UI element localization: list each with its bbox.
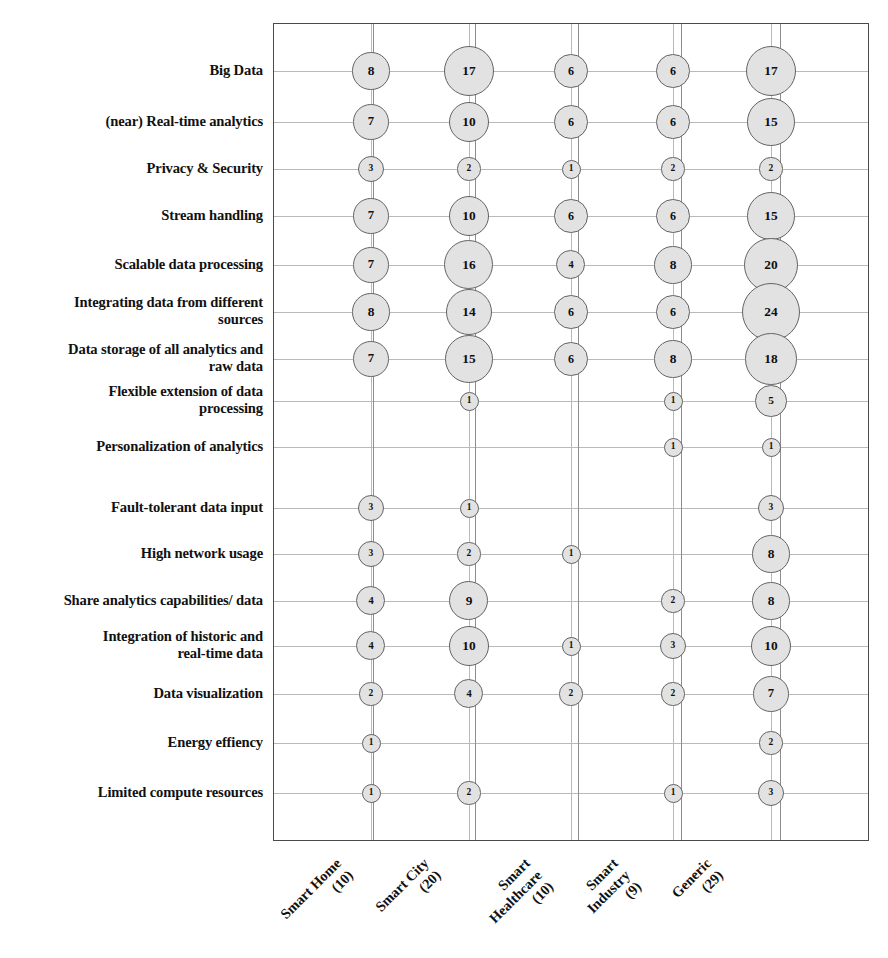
bubble-value-label: 6: [568, 353, 574, 365]
bubble-data-point: 3: [758, 495, 784, 521]
bubble-data-point: 8: [654, 246, 691, 283]
bubble-data-point: 6: [554, 342, 587, 375]
bubble-data-point: 7: [753, 676, 788, 711]
bubble-value-label: 6: [670, 116, 676, 128]
bubble-value-label: 8: [368, 305, 375, 318]
bubble-value-label: 10: [462, 115, 475, 128]
bubble-chart: Big Data (near) Real-time analytics Priv…: [0, 0, 888, 958]
grid-line-vertical: [371, 24, 372, 840]
bubble-value-label: 1: [671, 788, 676, 798]
bubble-value-label: 6: [670, 210, 676, 222]
bubble-value-label: 15: [764, 209, 777, 222]
bubble-data-point: 1: [762, 438, 781, 457]
bubble-data-point: 4: [356, 631, 385, 660]
y-axis-label-stream-handling: Stream handling: [0, 207, 263, 224]
bubble-value-label: 14: [462, 305, 475, 318]
bubble-value-label: 2: [369, 689, 374, 699]
y-axis-label-high-network-usage: High network usage: [0, 545, 263, 562]
bubble-value-label: 2: [671, 596, 676, 606]
category-divider: [578, 24, 579, 840]
bubble-data-point: 9: [449, 581, 488, 620]
grid-line-vertical: [469, 24, 470, 840]
bubble-value-label: 15: [764, 115, 777, 128]
y-axis-label-personalization-of-analytics: Personalization of analytics: [0, 438, 263, 455]
grid-line-vertical: [771, 24, 772, 840]
bubble-data-point: 2: [661, 589, 684, 612]
grid-line-vertical: [571, 24, 572, 840]
x-axis-label-smart-healthcare: Smart Healthcare (10): [474, 855, 557, 938]
bubble-value-label: 7: [368, 352, 374, 365]
bubble-data-point: 3: [358, 495, 384, 521]
bubble-value-label: 3: [369, 164, 374, 174]
bubble-value-label: 1: [467, 396, 472, 406]
bubble-value-label: 1: [467, 503, 472, 513]
bubble-value-label: 6: [568, 116, 574, 128]
bubble-value-label: 8: [768, 547, 775, 560]
y-axis-label-data-visualization: Data visualization: [0, 685, 263, 702]
bubble-data-point: 2: [457, 157, 480, 180]
bubble-data-point: 6: [554, 295, 587, 328]
bubble-data-point: 3: [358, 541, 384, 567]
bubble-data-point: 18: [745, 333, 796, 384]
y-axis-label-share-analytics-capabilities: Share analytics capabilities/ data: [0, 592, 263, 609]
bubble-value-label: 4: [368, 641, 373, 651]
bubble-data-point: 1: [562, 545, 581, 564]
y-axis-label-flexible-extension: Flexible extension of data processing: [0, 383, 263, 417]
bubble-data-point: 6: [554, 199, 587, 232]
bubble-data-point: 4: [556, 250, 585, 279]
bubble-value-label: 3: [369, 549, 374, 559]
bubble-data-point: 6: [656, 295, 689, 328]
bubble-data-point: 15: [747, 192, 795, 240]
bubble-data-point: 8: [752, 582, 789, 619]
y-axis-labels: Big Data (near) Real-time analytics Priv…: [0, 0, 265, 958]
bubble-data-point: 7: [353, 104, 388, 139]
bubble-data-point: 10: [449, 102, 490, 143]
y-axis-label-energy-effiency: Energy effiency: [0, 734, 263, 751]
bubble-data-point: 1: [460, 392, 479, 411]
bubble-value-label: 7: [368, 209, 374, 222]
bubble-data-point: 6: [554, 105, 587, 138]
bubble-data-point: 8: [352, 52, 389, 89]
bubble-data-point: 1: [362, 734, 381, 753]
bubble-value-label: 1: [569, 164, 574, 174]
bubble-data-point: 7: [353, 198, 388, 233]
bubble-data-point: 1: [664, 784, 683, 803]
bubble-value-label: 2: [769, 164, 774, 174]
bubble-value-label: 4: [368, 596, 373, 606]
bubble-value-label: 6: [568, 306, 574, 318]
bubble-value-label: 2: [467, 164, 472, 174]
bubble-value-label: 2: [467, 549, 472, 559]
bubble-data-point: 15: [747, 98, 795, 146]
y-axis-label-big-data: Big Data: [0, 62, 263, 79]
bubble-data-point: 3: [758, 780, 784, 806]
bubble-value-label: 10: [462, 209, 475, 222]
bubble-value-label: 8: [368, 64, 375, 77]
bubble-value-label: 1: [569, 641, 574, 651]
bubble-value-label: 3: [671, 641, 676, 651]
y-axis-label-integrating-data-sources: Integrating data from different sources: [0, 294, 263, 328]
y-axis-label-scalable-data-processing: Scalable data processing: [0, 256, 263, 273]
bubble-value-label: 2: [569, 689, 574, 699]
x-axis-label-smart-city: Smart City (20): [372, 855, 444, 927]
bubble-value-label: 8: [670, 352, 677, 365]
bubble-data-point: 6: [656, 199, 689, 232]
bubble-data-point: 1: [460, 499, 479, 518]
bubble-data-point: 2: [359, 682, 382, 705]
bubble-data-point: 2: [559, 682, 582, 705]
bubble-value-label: 3: [769, 503, 774, 513]
bubble-data-point: 3: [358, 156, 384, 182]
bubble-value-label: 2: [671, 689, 676, 699]
bubble-value-label: 3: [369, 503, 374, 513]
bubble-value-label: 17: [462, 64, 475, 77]
bubble-data-point: 6: [656, 105, 689, 138]
x-axis-label-smart-home: Smart Home (10): [277, 855, 356, 934]
bubble-value-label: 18: [764, 352, 777, 365]
bubble-value-label: 4: [568, 260, 573, 270]
bubble-data-point: 4: [356, 586, 385, 615]
x-axis-label-generic: Generic (29): [668, 855, 726, 913]
bubble-value-label: 17: [764, 64, 777, 77]
bubble-value-label: 1: [671, 396, 676, 406]
bubble-data-point: 6: [554, 54, 587, 87]
bubble-data-point: 4: [454, 679, 483, 708]
category-divider: [681, 24, 682, 840]
